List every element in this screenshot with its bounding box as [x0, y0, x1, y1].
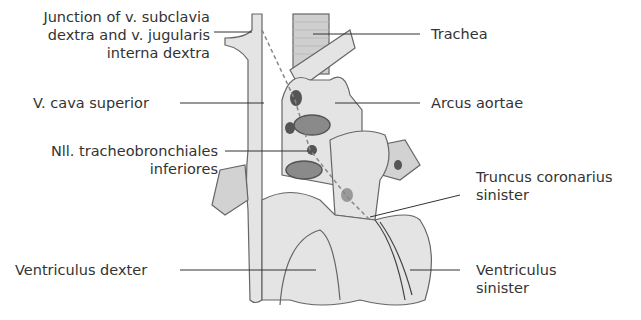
- pulmonary-trunk-shape: [330, 131, 389, 220]
- label-ventriculus-sinister-line2: sinister: [476, 279, 557, 297]
- label-ventriculus-sinister-line1: Ventriculus: [476, 261, 557, 279]
- label-junction-line1: Junction of v. subclavia: [10, 8, 210, 26]
- label-truncus: Truncus coronarius sinister: [476, 168, 613, 204]
- vena-cava-superior-shape: [225, 14, 262, 303]
- label-trachea: Trachea: [431, 25, 488, 43]
- label-nll: Nll. tracheobronchiales inferiores: [10, 142, 218, 178]
- label-nll-line1: Nll. tracheobronchiales: [10, 142, 218, 160]
- label-arcus: Arcus aortae: [431, 94, 523, 112]
- label-nll-line2: inferiores: [10, 160, 218, 178]
- label-ventriculus-dexter: Ventriculus dexter: [15, 261, 147, 279]
- label-junction: Junction of v. subclavia dextra and v. j…: [10, 8, 210, 62]
- label-junction-line3: interna dextra: [10, 44, 210, 62]
- label-junction-line2: dextra and v. jugularis: [10, 26, 210, 44]
- label-truncus-line1: Truncus coronarius: [476, 168, 613, 186]
- label-vcava: V. cava superior: [33, 94, 149, 112]
- label-ventriculus-sinister: Ventriculus sinister: [476, 261, 557, 297]
- label-truncus-line2: sinister: [476, 186, 613, 204]
